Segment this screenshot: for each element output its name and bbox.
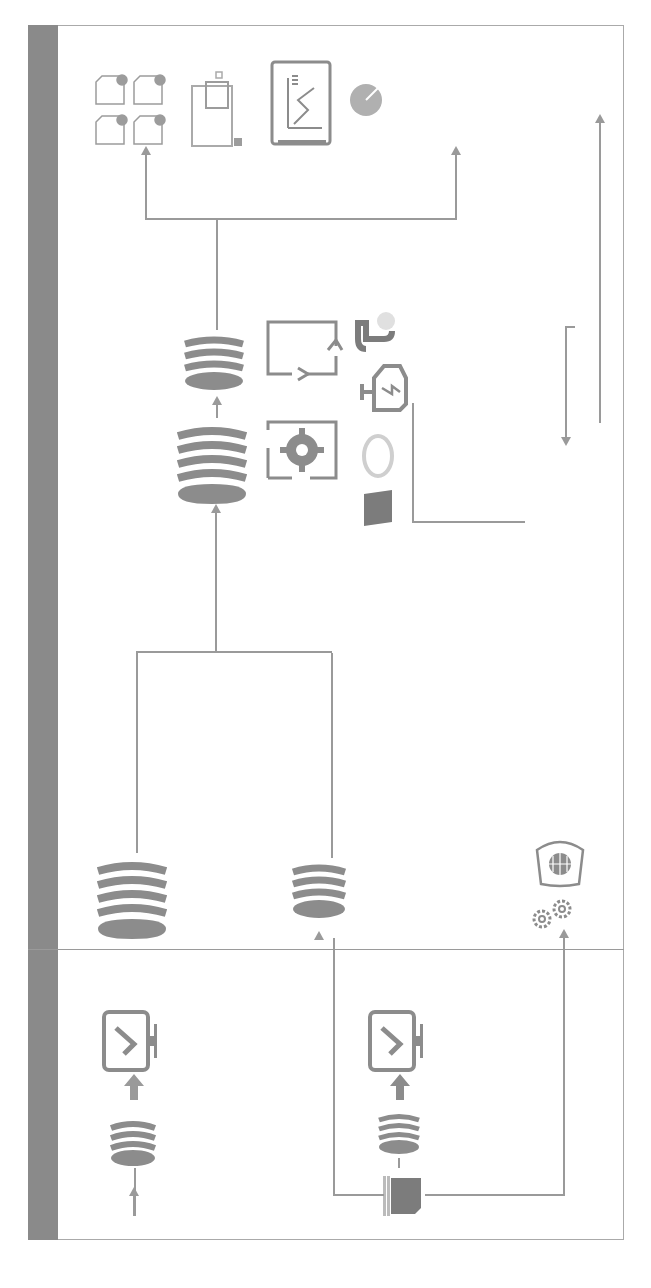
section-header-analytics [28,25,58,949]
document-stack-icon [383,1172,425,1218]
connector-to-rt-mart [333,938,335,1196]
connector-rt-mart-out [331,653,333,858]
r-language-icon [354,432,400,478]
realtime-source-mart-text [388,786,396,906]
arrow-into-dist-monitor [451,146,461,155]
arrow-into-distribution-back [595,114,605,123]
section-divider [28,949,624,950]
connector-to-web-service [563,938,565,1196]
connector-to-dist-deploy [145,155,147,220]
connector-to-sam [215,513,217,653]
connector-ml-return-tick [565,326,575,328]
connector-merge-vertical [136,651,332,653]
connector-dist-split [145,218,457,220]
widget-gauge-icon [348,82,384,118]
connector-rt-db-to-doc [398,1158,400,1168]
connector-sam-to-dist [216,220,218,330]
connector-doc-up [333,1194,384,1196]
database-icon [108,1112,158,1168]
monitor-check-icon-realtime [368,1000,428,1080]
arrow-right-icon-realtime [388,1070,412,1100]
section-header-workflow [28,950,58,1240]
gear-process-icon [262,412,342,488]
database-icon-realtime [376,1106,422,1156]
mobile-tablet-icon [190,68,246,148]
refresh-cycle-icon [262,312,342,382]
percent-tag-icon [360,488,396,528]
monitor-check-icon [102,1000,162,1080]
engine-icon [360,358,410,418]
shield-globe-icon [535,832,585,890]
python-icon [356,309,404,353]
connector-ws-to-ml [412,403,414,523]
arrow-sam-to-sam [212,396,222,405]
report-documents-icon [92,68,170,148]
arrow-ml-return [561,437,571,446]
arrow-into-rt-mart [314,931,324,940]
connector-source-marts-out [136,653,138,853]
connector-to-dist-monitor [455,155,457,220]
database-icon-rt-mart [290,858,348,920]
database-large-icon [92,853,172,943]
arrow-right-icon [122,1070,146,1100]
connector-doc-down [425,1194,565,1196]
dashboard-chart-icon [268,58,334,148]
database-icon-sam-2 [182,330,246,392]
database-large-icon-sam [172,418,252,508]
connector-arrow-stem [133,1196,135,1216]
arrow-into-source-marts [129,1187,139,1196]
connector-sam-to-sam [216,404,218,418]
connector-ml-return [565,328,567,438]
connector-ws-up [412,521,525,523]
connector-to-distribution-back [599,123,601,423]
architecture-diagram [0,0,651,1288]
gears-icon [530,893,574,933]
